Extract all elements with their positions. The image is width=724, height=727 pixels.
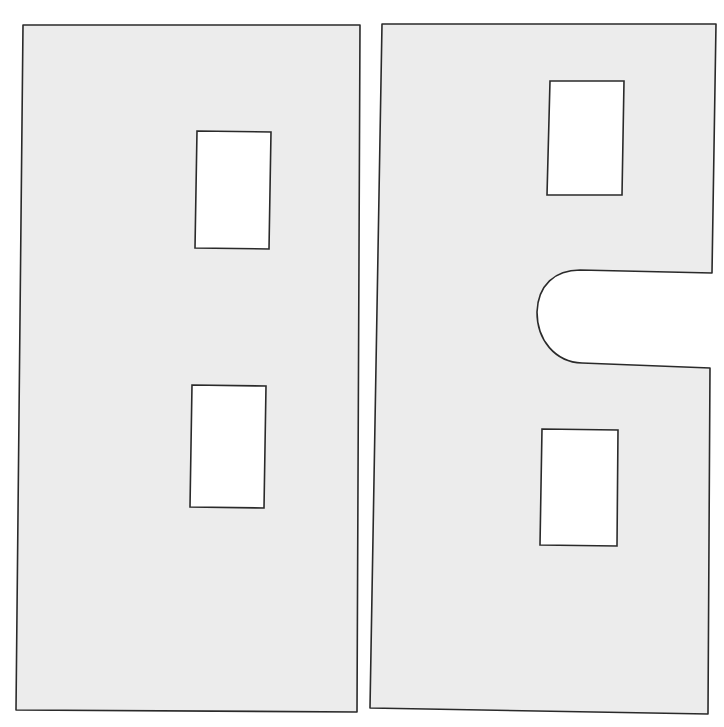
panel-drawing xyxy=(0,0,724,727)
right-panel-upper-window-cutout xyxy=(547,81,624,195)
left-panel-lower-window-cutout xyxy=(190,385,266,508)
right-panel xyxy=(370,24,716,714)
right-panel-lower-window-cutout xyxy=(540,429,618,546)
right-panel-group xyxy=(370,24,716,714)
left-panel-upper-window-cutout xyxy=(195,131,271,249)
left-panel-group xyxy=(16,25,360,712)
left-panel xyxy=(16,25,360,712)
